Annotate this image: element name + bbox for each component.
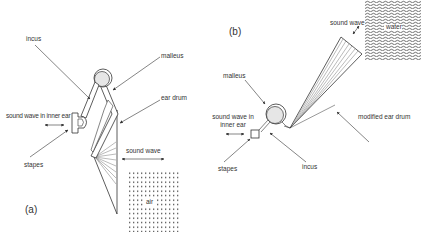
label-malleus-b: malleus [223,73,245,80]
label-sound-wave-inner-b-line1: sound wave in [212,114,254,121]
label-ear-drum-a: ear drum [161,95,187,102]
label-sound-wave-inner-b-line2: inner ear [212,122,254,129]
label-sound-wave-b: sound wave [330,20,365,27]
label-modified-ear-drum: modified ear drum [358,114,410,121]
label-stapes-a: stapes [24,162,43,169]
label-malleus-a: malleus [161,53,183,60]
ear-drum-icon [94,110,117,214]
label-water: water [386,24,402,31]
label-sound-wave-a: sound wave [126,148,161,155]
incus-icon [81,82,99,118]
panel-tag-b: (b) [229,27,241,37]
panel-tag-a: (a) [25,205,37,215]
label-incus-b: incus [302,164,317,171]
label-stapes-b: stapes [218,166,237,173]
label-sound-wave-inner-a: sound wave in inner ear [6,113,70,120]
label-incus-a: incus [26,36,41,43]
label-air: air [146,199,153,206]
panel-a-drawing [30,45,180,232]
stapes-box-icon [251,130,259,138]
diagram-canvas [0,0,429,241]
modified-ear-drum-icon [290,37,362,128]
